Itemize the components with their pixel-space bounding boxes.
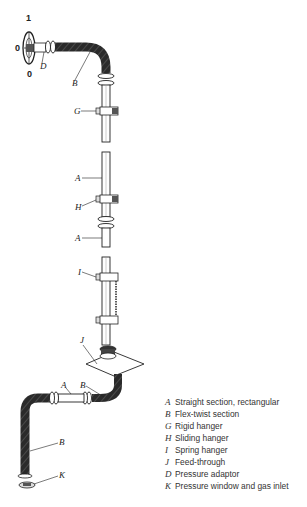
legend-text: Straight section, rectangular: [175, 397, 279, 407]
callout-h: H: [75, 203, 82, 212]
pressure-adaptor-d: [34, 41, 56, 53]
callout-b-mid: B: [80, 381, 86, 390]
legend-item: JFeed-through: [165, 457, 305, 469]
callout-k: K: [59, 471, 65, 480]
dial-label-bottom: 0: [27, 70, 32, 79]
legend-key: J: [165, 457, 175, 467]
legend-text: Sliding hanger: [175, 433, 229, 443]
legend-item: AStraight section, rectangular: [165, 397, 305, 409]
legend-text: Pressure adaptor: [175, 469, 239, 479]
legend-text: Feed-through: [175, 457, 225, 467]
legend-item: HSliding hanger: [165, 433, 305, 445]
legend-key: A: [165, 397, 175, 407]
callout-b-top: B: [72, 79, 78, 88]
rigid-hanger-g: [96, 107, 118, 115]
callout-j: J: [80, 336, 84, 345]
pressure-dial-icon: [23, 32, 35, 64]
legend-key: D: [165, 469, 175, 479]
legend-key: G: [165, 421, 175, 431]
legend-key: K: [165, 481, 175, 491]
callout-i: I: [78, 268, 81, 277]
legend-key: H: [165, 433, 175, 443]
legend-text: Flex-twist section: [175, 409, 239, 419]
legend-text: Pressure window and gas inlet: [175, 481, 289, 491]
sliding-hanger-h: [96, 195, 118, 203]
callout-g: G: [74, 107, 81, 116]
callout-b-bottom: B: [59, 438, 65, 447]
legend-item: KPressure window and gas inlet: [165, 481, 305, 493]
legend-item: GRigid hanger: [165, 421, 305, 433]
legend-item: DPressure adaptor: [165, 469, 305, 481]
legend-item: BFlex-twist section: [165, 409, 305, 421]
legend-key: I: [165, 445, 175, 455]
callout-a-3: A: [61, 381, 67, 390]
legend-text: Rigid hanger: [175, 421, 223, 431]
pressure-window-k: [19, 482, 35, 488]
legend: AStraight section, rectangular BFlex-twi…: [165, 397, 305, 493]
flex-twist-lower: [92, 374, 118, 398]
callout-a-1: A: [75, 174, 81, 183]
callout-a-2: A: [75, 234, 81, 243]
legend-key: B: [165, 409, 175, 419]
dial-label-left: 0: [15, 44, 20, 53]
legend-text: Spring hanger: [175, 445, 228, 455]
dial-label-top: 1: [26, 14, 31, 23]
legend-item: ISpring hanger: [165, 445, 305, 457]
flex-twist-bottom: [25, 398, 50, 474]
callout-d: D: [40, 62, 47, 71]
